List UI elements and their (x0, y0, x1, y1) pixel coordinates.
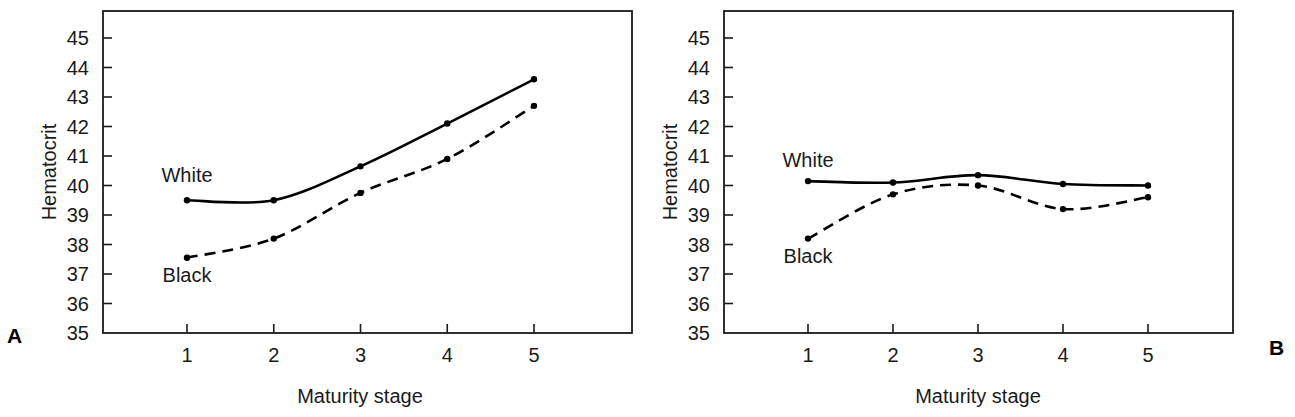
x-axis-title-b: Maturity stage (915, 385, 1041, 407)
y-axis-tick-label: 38 (67, 234, 89, 256)
y-axis-tick-labels-b: 4544434241403938373635 (688, 27, 710, 344)
y-axis-tick-label: 41 (67, 145, 89, 167)
data-series-group-a (184, 76, 537, 261)
x-axis-tick-label: 5 (528, 344, 539, 366)
plot-frame-b (724, 11, 1233, 333)
x-axis-tick-label: 1 (181, 344, 192, 366)
series-inline-label-white: White (161, 164, 212, 186)
series-inline-label-white: White (782, 149, 833, 171)
data-point-black (1060, 206, 1066, 212)
data-point-white (184, 197, 190, 203)
y-axis-tick-label: 38 (688, 234, 710, 256)
x-axis-ticks-b (808, 324, 1148, 333)
y-axis-tick-label: 44 (67, 57, 89, 79)
x-axis-tick-label: 4 (442, 344, 453, 366)
y-axis-tick-label: 37 (67, 263, 89, 285)
y-axis-tick-label: 36 (688, 293, 710, 315)
x-axis-tick-label: 3 (972, 344, 983, 366)
y-axis-tick-labels-a: 4544434241403938373635 (67, 27, 89, 344)
data-point-black (531, 103, 537, 109)
data-point-white (357, 163, 363, 169)
y-axis-tick-label: 45 (67, 27, 89, 49)
x-axis-tick-label: 3 (355, 344, 366, 366)
data-series-group-b (805, 172, 1151, 242)
chart-panel-b: 4544434241403938373635 12345 WhiteBlack … (660, 0, 1295, 417)
data-point-white (975, 172, 981, 178)
y-axis-tick-label: 36 (67, 293, 89, 315)
y-axis-tick-label: 44 (688, 57, 710, 79)
data-point-white (271, 197, 277, 203)
figure-hematocrit-by-maturity-stage: 4544434241403938373635 12345 WhiteBlack … (0, 0, 1295, 417)
data-point-black (184, 255, 190, 261)
data-point-black (357, 190, 363, 196)
chart-svg-a: 4544434241403938373635 12345 WhiteBlack … (0, 0, 660, 417)
y-axis-title-b: Hematocrit (660, 123, 681, 220)
y-axis-title-a: Hematocrit (38, 123, 60, 220)
data-point-white (1145, 182, 1151, 188)
y-axis-ticks-a (103, 38, 112, 304)
series-inline-labels-b: WhiteBlack (782, 149, 833, 267)
x-axis-tick-label: 4 (1057, 344, 1068, 366)
y-axis-tick-label: 39 (67, 204, 89, 226)
series-line-white (187, 79, 534, 202)
data-point-white (444, 120, 450, 126)
data-point-black (975, 182, 981, 188)
series-inline-labels-a: WhiteBlack (161, 164, 212, 286)
series-inline-label-black: Black (784, 245, 834, 267)
y-axis-tick-label: 41 (688, 145, 710, 167)
y-axis-tick-label: 39 (688, 204, 710, 226)
x-axis-ticks-a (187, 324, 534, 333)
data-point-white (1060, 181, 1066, 187)
x-axis-tick-label: 2 (887, 344, 898, 366)
series-line-black (808, 185, 1148, 239)
y-axis-tick-label: 42 (688, 116, 710, 138)
x-axis-tick-labels-a: 12345 (181, 344, 539, 366)
x-axis-tick-label: 2 (268, 344, 279, 366)
x-axis-tick-labels-b: 12345 (802, 344, 1153, 366)
y-axis-tick-label: 45 (688, 27, 710, 49)
panel-label-a: A (7, 325, 23, 346)
data-point-black (805, 235, 811, 241)
y-axis-tick-label: 37 (688, 263, 710, 285)
y-axis-tick-label: 35 (67, 322, 89, 344)
data-point-black (1145, 194, 1151, 200)
data-point-black (271, 235, 277, 241)
chart-svg-b: 4544434241403938373635 12345 WhiteBlack … (660, 0, 1295, 417)
chart-panel-a: 4544434241403938373635 12345 WhiteBlack … (0, 0, 660, 417)
x-axis-title-a: Maturity stage (297, 385, 423, 407)
x-axis-tick-label: 5 (1142, 344, 1153, 366)
y-axis-tick-label: 43 (67, 86, 89, 108)
y-axis-ticks-b (724, 38, 733, 304)
y-axis-tick-label: 35 (688, 322, 710, 344)
data-point-white (805, 178, 811, 184)
y-axis-tick-label: 40 (688, 175, 710, 197)
data-point-black (444, 156, 450, 162)
data-point-black (890, 191, 896, 197)
y-axis-tick-label: 43 (688, 86, 710, 108)
series-inline-label-black: Black (163, 264, 213, 286)
x-axis-tick-label: 1 (802, 344, 813, 366)
series-line-black (187, 106, 534, 258)
data-point-white (890, 179, 896, 185)
y-axis-tick-label: 42 (67, 116, 89, 138)
data-point-white (531, 76, 537, 82)
panel-label-b: B (1269, 337, 1285, 358)
y-axis-tick-label: 40 (67, 175, 89, 197)
